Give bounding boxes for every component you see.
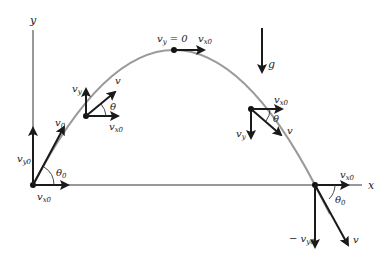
gravity-label: g [268,58,275,71]
vx0-label-landing: vx0 [340,169,355,182]
theta-label-ascending: θ [110,101,116,112]
ascending-point: v vy vx0 θ [72,75,124,134]
neg-vy0-label: − vy0 [289,233,315,246]
vy-label-descending: vy [236,128,247,141]
theta-arc-ascending [101,104,106,116]
gravity-indicator: g [262,28,275,72]
landing-point: vx0 − vy0 v θ0 [289,169,359,247]
projectile-diagram: y x g v0 vy0 vx0 θ0 v vy vx0 θ vy = 0 vx [0,0,392,260]
v-label-landing: v [353,234,359,245]
theta0-label-landing: θ0 [335,194,346,207]
v0-label: v0 [55,117,66,130]
vx0-label: vx0 [37,191,52,204]
v-vector-landing [315,185,348,245]
theta0-label: θ0 [56,167,67,180]
v-label-descending: v [287,125,293,136]
vy-zero-label: vy = 0 [157,33,188,46]
trajectory-curve [33,50,330,214]
vx0-label-peak: vx0 [198,33,213,46]
theta0-arc [44,167,54,185]
vx0-label-descending: vx0 [274,94,289,107]
vy-label-ascending: vy [72,83,83,96]
launch-point: v0 vy0 vx0 θ0 [17,117,68,204]
vy0-label: vy0 [17,153,32,166]
v-label-ascending: v [115,75,121,86]
vx0-label-ascending: vx0 [109,121,124,134]
y-axis-label: y [29,14,37,27]
theta-label-descending: θ [273,113,279,124]
x-axis-label: x [368,179,375,192]
